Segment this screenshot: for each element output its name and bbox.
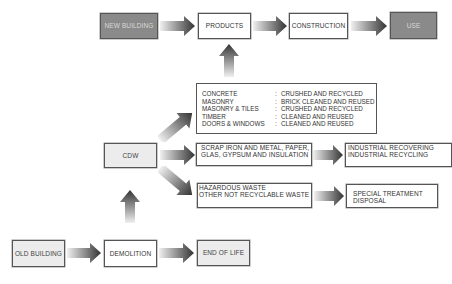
material-row: TIMBER : CLEANED AND REUSED xyxy=(202,113,376,121)
use-label: USE xyxy=(407,22,421,29)
materials-treatment-box: CONCRETE : CRUSHED AND RECYCLED MASONRY … xyxy=(196,83,377,134)
end-of-life-label: END OF LIFE xyxy=(203,249,244,256)
arrow-right-icon xyxy=(159,243,195,263)
new-building-label: NEW BUILDING xyxy=(105,22,154,29)
use-box: USE xyxy=(390,12,437,39)
demolition-label: DEMOLITION xyxy=(110,250,151,257)
scrap-materials-box: SCRAP IRON AND METAL, PAPER, GLAS, GYPSU… xyxy=(196,143,312,166)
end-of-life-box: END OF LIFE xyxy=(197,240,250,266)
material-row: DOORS & WINDOWS : CLEANED AND REUSED xyxy=(202,120,376,128)
products-box: PRODUCTS xyxy=(198,13,251,39)
old-building-label: OLD BUILDING xyxy=(15,250,62,257)
material-row: MASONRY & TILES : CRUSHED AND RECYCLED xyxy=(202,105,376,113)
arrow-right-icon xyxy=(160,16,196,36)
demolition-box: DEMOLITION xyxy=(104,240,157,267)
arrow-right-icon xyxy=(253,16,288,36)
arrow-up-icon xyxy=(120,190,140,223)
special-treatment-box: SPECIAL TREATMENT DISPOSAL xyxy=(346,184,438,208)
arrow-right-icon xyxy=(160,145,196,165)
construction-box: CONSTRUCTION xyxy=(289,13,348,39)
material-row: MASONRY : BRICK CLEANED AND REUSED xyxy=(202,98,376,106)
industrial-box: INDUSTRIAL RECOVERING INDUSTRIAL RECYCLI… xyxy=(345,143,452,167)
cdw-box: CDW xyxy=(104,143,157,168)
arrow-right-icon xyxy=(314,186,345,206)
arrow-right-icon xyxy=(351,16,388,36)
cdw-label: CDW xyxy=(123,152,139,159)
new-building-box: NEW BUILDING xyxy=(100,13,158,39)
material-row: CONCRETE : CRUSHED AND RECYCLED xyxy=(202,90,376,98)
products-label: PRODUCTS xyxy=(206,22,243,29)
construction-label: CONSTRUCTION xyxy=(292,22,346,29)
arrow-up-icon xyxy=(219,44,239,77)
arrow-up-right-icon xyxy=(158,110,194,142)
arrow-right-icon xyxy=(67,243,102,263)
old-building-box: OLD BUILDING xyxy=(12,240,65,267)
arrow-right-icon xyxy=(313,145,344,165)
hazardous-waste-box: HAZARDOUS WASTE OTHER NOT RECYCLABLE WAS… xyxy=(197,183,312,208)
arrow-down-right-icon xyxy=(158,166,194,198)
